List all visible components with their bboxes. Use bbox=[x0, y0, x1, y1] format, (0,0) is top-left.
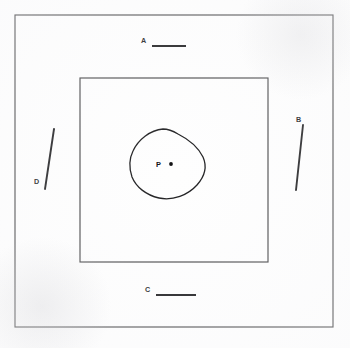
label-b: B bbox=[296, 115, 301, 124]
label-c: C bbox=[145, 285, 150, 294]
label-d: D bbox=[34, 177, 39, 186]
point-p-marker bbox=[169, 162, 173, 166]
interior-region-curve bbox=[130, 129, 205, 199]
label-a: A bbox=[141, 36, 146, 45]
outer-boundary-rect bbox=[15, 15, 333, 327]
diagram-canvas: P A B C D bbox=[0, 0, 350, 348]
figure-container: P A B C D bbox=[0, 0, 350, 348]
pointer-line-d bbox=[45, 129, 54, 189]
pointer-line-b bbox=[296, 125, 303, 190]
inner-boundary-rect bbox=[80, 78, 268, 262]
label-p: P bbox=[156, 160, 161, 169]
